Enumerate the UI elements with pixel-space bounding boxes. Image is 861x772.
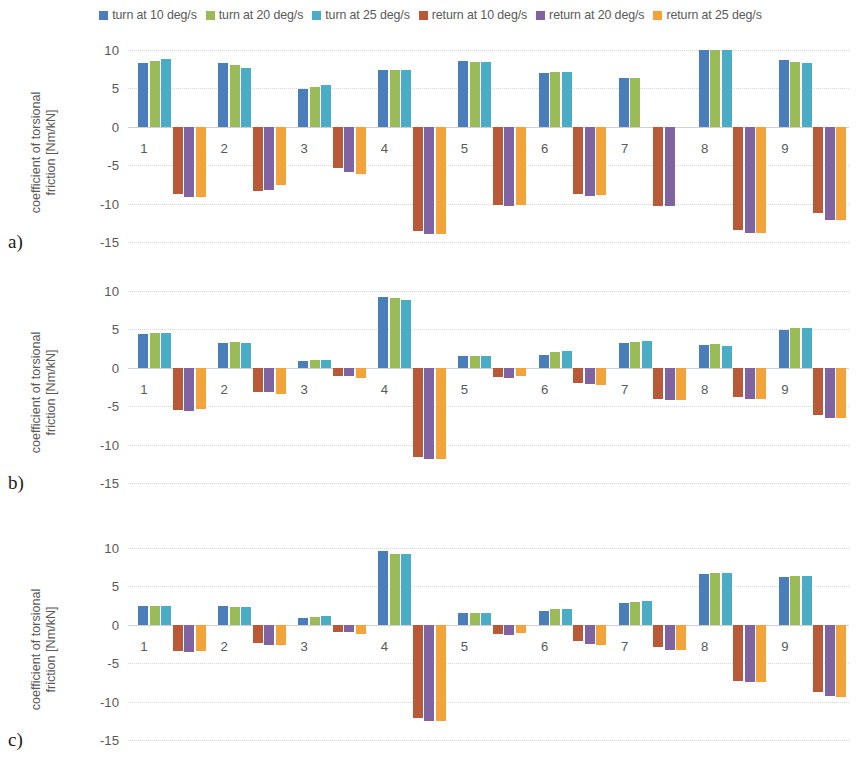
bar-turn-at-10-deg-s[interactable]: [699, 574, 709, 625]
bar-return-at-10-deg-s[interactable]: [173, 625, 183, 651]
legend-entry-turn20[interactable]: turn at 20 deg/s: [206, 8, 304, 22]
bar-turn-at-10-deg-s[interactable]: [458, 356, 468, 368]
bar-turn-at-10-deg-s[interactable]: [699, 345, 709, 368]
bar-turn-at-20-deg-s[interactable]: [710, 50, 720, 127]
bar-return-at-20-deg-s[interactable]: [825, 127, 835, 221]
bar-turn-at-10-deg-s[interactable]: [218, 606, 228, 624]
bar-return-at-20-deg-s[interactable]: [424, 127, 434, 234]
bar-return-at-20-deg-s[interactable]: [344, 625, 354, 633]
bar-return-at-10-deg-s[interactable]: [493, 625, 503, 634]
bar-turn-at-25-deg-s[interactable]: [241, 68, 251, 127]
bar-return-at-25-deg-s[interactable]: [196, 127, 206, 197]
bar-return-at-20-deg-s[interactable]: [585, 625, 595, 644]
bar-turn-at-25-deg-s[interactable]: [562, 609, 572, 624]
bar-turn-at-25-deg-s[interactable]: [161, 606, 171, 625]
bar-turn-at-25-deg-s[interactable]: [802, 576, 812, 624]
bar-turn-at-20-deg-s[interactable]: [230, 342, 240, 367]
bar-turn-at-25-deg-s[interactable]: [321, 85, 331, 127]
bar-turn-at-10-deg-s[interactable]: [779, 330, 789, 368]
bar-turn-at-20-deg-s[interactable]: [550, 352, 560, 367]
bar-turn-at-20-deg-s[interactable]: [550, 72, 560, 127]
bar-return-at-20-deg-s[interactable]: [424, 625, 434, 721]
bar-turn-at-20-deg-s[interactable]: [390, 70, 400, 127]
bar-return-at-10-deg-s[interactable]: [413, 368, 423, 457]
bar-turn-at-20-deg-s[interactable]: [310, 87, 320, 127]
bar-return-at-25-deg-s[interactable]: [276, 127, 286, 185]
bar-return-at-25-deg-s[interactable]: [836, 127, 846, 221]
bar-return-at-20-deg-s[interactable]: [264, 625, 274, 645]
bar-turn-at-10-deg-s[interactable]: [779, 60, 789, 127]
bar-turn-at-20-deg-s[interactable]: [790, 576, 800, 624]
bar-turn-at-10-deg-s[interactable]: [378, 297, 388, 368]
bar-turn-at-10-deg-s[interactable]: [699, 50, 709, 127]
bar-turn-at-25-deg-s[interactable]: [562, 351, 572, 368]
bar-turn-at-20-deg-s[interactable]: [630, 78, 640, 126]
bar-return-at-25-deg-s[interactable]: [436, 127, 446, 234]
bar-turn-at-25-deg-s[interactable]: [642, 601, 652, 625]
bar-return-at-20-deg-s[interactable]: [745, 625, 755, 683]
bar-return-at-20-deg-s[interactable]: [745, 368, 755, 399]
bar-return-at-25-deg-s[interactable]: [756, 625, 766, 683]
bar-return-at-20-deg-s[interactable]: [585, 368, 595, 384]
bar-turn-at-10-deg-s[interactable]: [138, 63, 148, 127]
bar-turn-at-25-deg-s[interactable]: [802, 63, 812, 127]
bar-turn-at-25-deg-s[interactable]: [401, 70, 411, 127]
bar-return-at-25-deg-s[interactable]: [356, 127, 366, 175]
bar-turn-at-10-deg-s[interactable]: [458, 613, 468, 625]
bar-turn-at-10-deg-s[interactable]: [619, 343, 629, 368]
bar-return-at-10-deg-s[interactable]: [253, 127, 263, 192]
bar-return-at-20-deg-s[interactable]: [665, 127, 675, 206]
bar-return-at-10-deg-s[interactable]: [333, 625, 343, 633]
bar-return-at-25-deg-s[interactable]: [596, 127, 606, 195]
bar-return-at-20-deg-s[interactable]: [184, 625, 194, 653]
bar-return-at-20-deg-s[interactable]: [264, 368, 274, 393]
bar-turn-at-20-deg-s[interactable]: [470, 613, 480, 625]
bar-turn-at-10-deg-s[interactable]: [539, 73, 549, 127]
bar-return-at-10-deg-s[interactable]: [413, 127, 423, 231]
bar-return-at-10-deg-s[interactable]: [733, 127, 743, 231]
bar-return-at-25-deg-s[interactable]: [196, 368, 206, 409]
bar-turn-at-20-deg-s[interactable]: [550, 609, 560, 624]
bar-turn-at-10-deg-s[interactable]: [298, 89, 308, 127]
bar-return-at-20-deg-s[interactable]: [264, 127, 274, 190]
bar-turn-at-25-deg-s[interactable]: [321, 616, 331, 624]
bar-return-at-10-deg-s[interactable]: [733, 625, 743, 681]
bar-turn-at-25-deg-s[interactable]: [161, 59, 171, 127]
bar-return-at-25-deg-s[interactable]: [756, 127, 766, 233]
bar-return-at-25-deg-s[interactable]: [756, 368, 766, 399]
bar-turn-at-20-deg-s[interactable]: [790, 328, 800, 368]
bar-return-at-20-deg-s[interactable]: [184, 127, 194, 197]
bar-turn-at-20-deg-s[interactable]: [710, 344, 720, 368]
bar-return-at-10-deg-s[interactable]: [493, 127, 503, 205]
bar-return-at-10-deg-s[interactable]: [573, 625, 583, 641]
legend-entry-ret25[interactable]: return at 25 deg/s: [653, 8, 761, 22]
bar-return-at-20-deg-s[interactable]: [504, 625, 514, 635]
bar-return-at-20-deg-s[interactable]: [585, 127, 595, 196]
bar-return-at-10-deg-s[interactable]: [413, 625, 423, 718]
bar-return-at-10-deg-s[interactable]: [253, 368, 263, 392]
bar-turn-at-25-deg-s[interactable]: [562, 72, 572, 127]
bar-return-at-20-deg-s[interactable]: [344, 368, 354, 376]
bar-return-at-25-deg-s[interactable]: [836, 625, 846, 697]
bar-return-at-20-deg-s[interactable]: [504, 368, 514, 378]
bar-turn-at-25-deg-s[interactable]: [481, 613, 491, 625]
bar-turn-at-25-deg-s[interactable]: [642, 341, 652, 368]
bar-turn-at-20-deg-s[interactable]: [230, 65, 240, 126]
bar-return-at-10-deg-s[interactable]: [573, 127, 583, 194]
bar-return-at-10-deg-s[interactable]: [813, 368, 823, 416]
bar-turn-at-20-deg-s[interactable]: [630, 602, 640, 625]
bar-turn-at-25-deg-s[interactable]: [481, 62, 491, 127]
bar-return-at-25-deg-s[interactable]: [516, 625, 526, 633]
bar-turn-at-10-deg-s[interactable]: [619, 78, 629, 127]
bar-turn-at-20-deg-s[interactable]: [310, 617, 320, 625]
bar-turn-at-20-deg-s[interactable]: [230, 607, 240, 625]
bar-return-at-10-deg-s[interactable]: [733, 368, 743, 397]
bar-return-at-10-deg-s[interactable]: [653, 368, 663, 399]
bar-turn-at-20-deg-s[interactable]: [710, 573, 720, 625]
bar-return-at-20-deg-s[interactable]: [184, 368, 194, 411]
bar-return-at-20-deg-s[interactable]: [344, 127, 354, 172]
bar-return-at-10-deg-s[interactable]: [573, 368, 583, 383]
bar-turn-at-20-deg-s[interactable]: [470, 62, 480, 127]
bar-turn-at-10-deg-s[interactable]: [619, 603, 629, 625]
bar-turn-at-20-deg-s[interactable]: [150, 333, 160, 368]
